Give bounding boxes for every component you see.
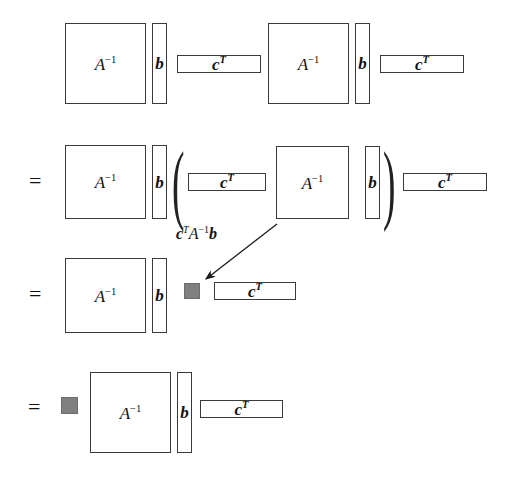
row1-column-vector-b-2: b bbox=[355, 23, 370, 104]
row3-scalar-block bbox=[184, 283, 200, 299]
row4-equals-sign: = bbox=[28, 396, 40, 418]
matrix-label: A−1 bbox=[302, 174, 324, 192]
row1-row-vector-c-transpose-2: cT bbox=[380, 55, 464, 73]
scalar-annotation-label: cTA−1b bbox=[176, 224, 217, 243]
vector-label: cT bbox=[220, 173, 234, 191]
row4-row-vector-c-transpose: cT bbox=[200, 400, 283, 418]
vector-label: b bbox=[155, 174, 164, 191]
matrix-diagram-canvas: A−1 b cT A−1 b cT = A−1 b ( cT A−1 b ) c… bbox=[0, 0, 506, 479]
row1-column-vector-b-1: b bbox=[152, 23, 167, 104]
row2-column-vector-b-1: b bbox=[152, 145, 167, 219]
matrix-label: A−1 bbox=[120, 404, 142, 422]
row4-scalar-block bbox=[61, 397, 78, 414]
vector-label: cT bbox=[415, 55, 429, 73]
row1-matrix-a-inverse-2: A−1 bbox=[268, 23, 349, 104]
vector-label: cT bbox=[248, 282, 262, 300]
row3-row-vector-c-transpose: cT bbox=[214, 282, 296, 300]
row2-row-vector-c-transpose-outer: cT bbox=[403, 173, 487, 191]
row4-matrix-a-inverse: A−1 bbox=[90, 372, 171, 453]
row2-matrix-a-inverse-1: A−1 bbox=[65, 145, 146, 219]
row2-column-vector-b-inner: b bbox=[365, 146, 380, 219]
matrix-label: A−1 bbox=[95, 55, 117, 73]
row2-close-paren: ) bbox=[383, 139, 395, 228]
row2-matrix-a-inverse-inner: A−1 bbox=[276, 146, 349, 219]
row1-row-vector-c-transpose-1: cT bbox=[177, 55, 261, 73]
row3-column-vector-b: b bbox=[152, 258, 167, 333]
matrix-label: A−1 bbox=[95, 173, 117, 191]
vector-label: cT bbox=[235, 400, 249, 418]
vector-label: cT bbox=[212, 55, 226, 73]
matrix-label: A−1 bbox=[95, 287, 117, 305]
row3-equals-sign: = bbox=[29, 283, 41, 305]
vector-label: b bbox=[180, 404, 189, 421]
vector-label: b bbox=[368, 174, 377, 191]
vector-label: b bbox=[358, 55, 367, 72]
vector-label: b bbox=[155, 55, 164, 72]
matrix-label: A−1 bbox=[298, 55, 320, 73]
row3-matrix-a-inverse: A−1 bbox=[65, 258, 146, 333]
vector-label: cT bbox=[438, 173, 452, 191]
row4-column-vector-b: b bbox=[177, 372, 192, 453]
row2-open-paren: ( bbox=[172, 139, 184, 228]
vector-label: b bbox=[155, 287, 164, 304]
row2-equals-sign: = bbox=[29, 170, 41, 192]
row2-row-vector-c-transpose-inner: cT bbox=[188, 173, 266, 191]
row1-matrix-a-inverse-1: A−1 bbox=[65, 23, 146, 104]
